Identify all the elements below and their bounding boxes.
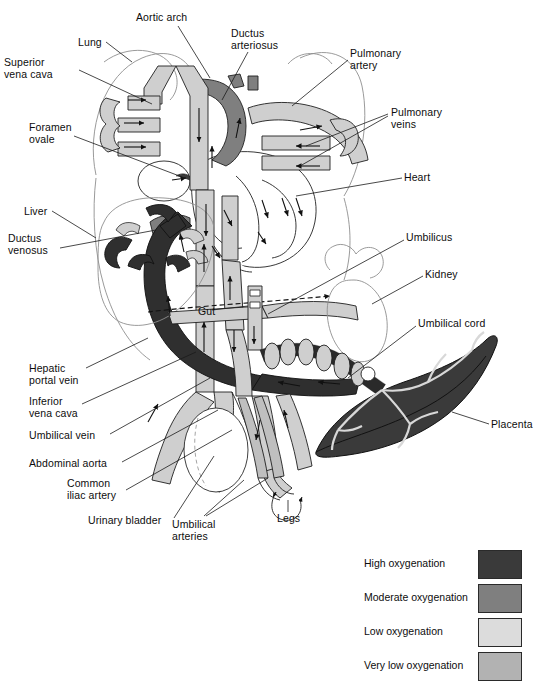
ductus-arteriosus-stub-a [228,74,244,88]
oxygenation-legend: High oxygenationModerate oxygenationLow … [340,548,537,684]
label-common-iliac-artery: Common iliac artery [67,478,116,501]
label-foramen-ovale: Foramen ovale [29,122,72,145]
right-atrium-outline [138,161,190,201]
legend-swatch [478,584,522,613]
ductus-arteriosus-stub-b [248,76,258,90]
label-umbilical-cord: Umbilical cord [418,318,485,330]
cord-coil-4 [316,345,332,371]
adrenal-right [356,247,383,278]
label-pulmonary-artery: Pulmonary artery [350,48,401,71]
pulmonary-vein-2 [262,156,330,170]
scv-branch-1 [128,96,160,110]
cord-coil-2 [280,339,296,365]
cord-coil-5 [334,353,350,379]
label-kidney: Kidney [425,269,458,281]
label-umbilical-vein: Umbilical vein [29,430,95,442]
portal-branch-left [105,237,132,268]
legs-arrow-up [300,497,302,502]
pulmonary-vein-1 [262,136,330,150]
cord-coil-1 [264,343,280,369]
gut-valve-2 [250,302,260,308]
label-lung: Lung [78,37,102,49]
leader-pulmonary-artery [292,60,348,106]
legend-row: Low oxygenation [340,616,537,650]
label-placenta: Placenta [491,419,533,431]
label-inferior-vena-cava: Inferior vena cava [29,396,78,419]
torso-left-outline [94,178,150,360]
leader-inferior-vena-cava [82,352,196,404]
kidney-outline [327,280,387,362]
label-liver: Liver [24,206,47,218]
arrow-iliac-left [148,404,158,422]
adrenal-left [325,244,356,270]
label-umbilical-arteries: Umbilical arteries [172,519,216,542]
legend-swatch [478,550,522,579]
legend-swatch [478,618,522,647]
label-heart: Heart [404,172,430,184]
label-abdominal-aorta: Abdominal aorta [29,458,107,470]
urinary-bladder-outline [184,408,248,492]
cord-coil-3 [298,339,314,365]
gut-valve-1 [250,290,260,296]
leader-hepatic-portal-vein [86,338,148,368]
scv-branch-2 [118,118,160,132]
leader-lung [106,42,132,62]
label-aortic-arch: Aortic arch [136,12,187,24]
legend-row: Very low oxygenation [340,650,537,684]
umbilical-cord-loop [361,367,375,381]
portal-branch-right [166,255,190,272]
label-pulmonary-veins: Pulmonary veins [391,107,442,130]
label-umbilicus: Umbilicus [406,232,452,244]
label-ductus-arteriosus: Ductus arteriosus [231,28,278,51]
legend-swatch [478,652,522,681]
legend-row: Moderate oxygenation [340,582,537,616]
legend-label: Low oxygenation [364,625,443,637]
label-ductus-venosus: Ductus venosus [8,233,48,256]
leader-heart [296,178,402,196]
leader-umbilical-cord [348,326,416,378]
superior-vena-cava-shape [100,98,120,152]
fetal-circulation-diagram: LungAortic archDuctus arteriosusSuperior… [0,0,537,684]
label-gut: Gut [198,306,215,318]
right-lung-top-outline [288,54,332,65]
leader-placenta [452,412,489,424]
leader-superior-vena-cava [79,70,152,104]
torso-right-outline [344,198,350,280]
label-superior-vena-cava: Superior vena cava [4,57,53,80]
legend-label: Very low oxygenation [364,659,463,671]
leader-liver [52,211,96,238]
legend-row: High oxygenation [340,548,537,582]
foramen-ovale-group [138,161,192,201]
descending-aorta-upper [222,196,238,260]
label-urinary-bladder: Urinary bladder [88,515,161,527]
urinary-bladder-group [184,408,248,492]
scv-branch-3 [118,142,160,156]
umbilical-artery-right [276,394,312,470]
gut-vessel-band-right [262,302,358,321]
label-hepatic-portal-vein: Hepatic portal vein [29,363,79,386]
leader-kidney [372,276,423,304]
label-legs: Legs [277,513,300,525]
legend-label: High oxygenation [364,557,445,569]
legend-label: Moderate oxygenation [364,591,468,603]
